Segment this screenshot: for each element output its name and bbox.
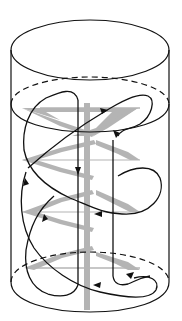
diagram-canvas: Stirred tank with helical ribbon impelle… xyxy=(0,0,182,321)
mixing-tank-diagram xyxy=(0,0,182,321)
